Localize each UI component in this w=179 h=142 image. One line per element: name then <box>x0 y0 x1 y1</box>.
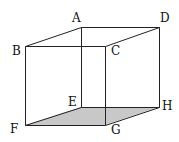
vertex-label-g: G <box>111 123 121 137</box>
vertex-label-e: E <box>68 95 77 109</box>
vertex-label-d: D <box>160 11 170 25</box>
shaded-bottom-face-efgh <box>25 107 159 125</box>
vertex-label-c: C <box>111 44 120 58</box>
vertex-label-a: A <box>71 11 81 25</box>
cube-diagram: ABCDEFGH <box>0 0 179 142</box>
vertex-label-b: B <box>12 44 21 58</box>
vertex-label-f: F <box>10 122 18 136</box>
edge-ab <box>26 28 82 47</box>
vertex-label-h: H <box>162 99 172 113</box>
